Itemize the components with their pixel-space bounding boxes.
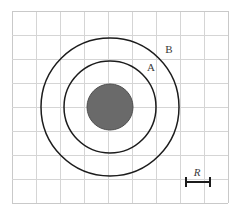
scale-bar-label: R	[193, 166, 201, 178]
concentric-circles-figure: B A R	[0, 0, 241, 220]
core-shaded-disk	[87, 84, 133, 130]
circle-a-label: A	[147, 61, 155, 73]
circle-b-label: B	[165, 43, 172, 55]
figure-container: B A R	[0, 0, 241, 220]
